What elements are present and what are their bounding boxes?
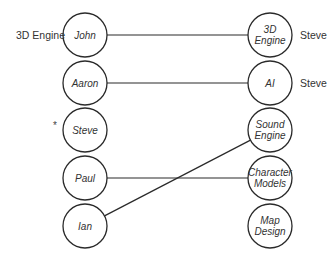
person-node-ian[interactable]: Ian bbox=[63, 204, 107, 248]
person-node-steve[interactable]: Steve* bbox=[53, 108, 107, 152]
person-name: Steve bbox=[72, 125, 98, 136]
task-name-line: 3D bbox=[264, 24, 277, 35]
edges-layer bbox=[105, 35, 251, 216]
task-node-sound-engine[interactable]: SoundEngine bbox=[248, 108, 292, 152]
task-name-line: Design bbox=[254, 226, 286, 237]
task-name-line: Character bbox=[248, 167, 293, 178]
person-name: John bbox=[73, 30, 96, 41]
person-name: Ian bbox=[78, 221, 92, 232]
task-name-line: Sound bbox=[256, 119, 285, 130]
task-name-line: AI bbox=[264, 78, 275, 89]
person-name: Aaron bbox=[71, 78, 99, 89]
task-name-line: Map bbox=[260, 215, 280, 226]
person-name: Paul bbox=[75, 173, 96, 184]
task-name-line: Models bbox=[254, 178, 286, 189]
person-node-aaron[interactable]: Aaron bbox=[63, 61, 107, 105]
right-column-tasks: 3DEngineSteveAISteveSoundEngineCharacter… bbox=[248, 13, 327, 248]
assignment-diagram: John3D EngineAaronSteve*PaulIan 3DEngine… bbox=[0, 0, 334, 260]
assigned-person-label: Steve bbox=[300, 29, 327, 41]
task-node-ai[interactable]: AISteve bbox=[248, 61, 327, 105]
task-name-line: Engine bbox=[254, 130, 286, 141]
left-column-people: John3D EngineAaronSteve*PaulIan bbox=[16, 13, 107, 248]
person-node-john[interactable]: John3D Engine bbox=[16, 13, 107, 57]
assigned-person-label: Steve bbox=[300, 77, 327, 89]
assigned-task-label: 3D Engine bbox=[16, 29, 65, 41]
task-node-3d-engine[interactable]: 3DEngineSteve bbox=[248, 13, 327, 57]
task-node-character-models[interactable]: CharacterModels bbox=[248, 156, 293, 200]
asterisk-marker: * bbox=[53, 120, 57, 131]
task-node-map-design[interactable]: MapDesign bbox=[248, 204, 292, 248]
person-node-paul[interactable]: Paul bbox=[63, 156, 107, 200]
task-name-line: Engine bbox=[254, 35, 286, 46]
